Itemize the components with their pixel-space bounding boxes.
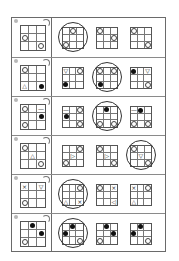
circle-icon — [97, 238, 103, 244]
grid-cell — [131, 68, 138, 75]
symbol-icon: — — [131, 107, 137, 113]
filled-dot-icon — [138, 224, 143, 229]
grid-cell — [37, 82, 45, 90]
circle-icon — [77, 146, 83, 152]
answer-option-1[interactable]: ▷ — [62, 145, 84, 167]
circle-icon — [22, 200, 28, 206]
column-divider — [51, 58, 52, 96]
symbol-icon: ▷ — [70, 153, 75, 159]
grid-cell — [37, 144, 45, 152]
answer-option-3[interactable]: — — [130, 106, 152, 128]
grid-cell — [37, 199, 45, 207]
question-number-marker — [14, 19, 18, 23]
grid-cell — [21, 74, 29, 82]
answer-option-2[interactable]: ▷ — [96, 145, 118, 167]
question-grid — [20, 221, 46, 247]
answer-option-3[interactable] — [130, 27, 152, 49]
grid-cell: △ — [29, 152, 37, 160]
question-number-marker — [14, 98, 18, 102]
grid-cell — [111, 146, 118, 153]
symbol-icon: × — [131, 185, 136, 191]
puzzle-row: △▷▷▽ — [12, 135, 165, 174]
column-divider — [51, 97, 52, 135]
question-number-marker — [14, 59, 18, 63]
symbol-icon: △ — [132, 199, 137, 205]
grid-cell — [29, 191, 37, 199]
filled-dot-icon — [131, 231, 136, 236]
grid-cell — [131, 28, 138, 35]
column-divider — [51, 175, 52, 213]
grid-cell — [138, 231, 145, 238]
filled-dot-icon — [131, 69, 136, 74]
grid-cell — [29, 144, 37, 152]
answer-option-1[interactable]: — — [62, 106, 84, 128]
grid-cell — [131, 237, 138, 244]
symbol-icon: ▽ — [64, 68, 69, 74]
answer-option-2[interactable] — [96, 223, 118, 245]
grid-cell — [21, 42, 29, 50]
symbol-icon: — — [38, 106, 44, 112]
grid-cell — [111, 231, 118, 238]
filled-dot-icon — [138, 108, 143, 113]
symbol-icon: ▷ — [104, 153, 109, 159]
question-grid: △ — [20, 143, 46, 169]
circle-icon — [22, 145, 28, 151]
answer-option-3[interactable]: ×△ — [130, 184, 152, 206]
circle-icon — [22, 122, 28, 128]
grid-cell — [37, 74, 45, 82]
grid-cell — [111, 160, 118, 166]
symbol-icon: △ — [30, 153, 35, 159]
grid-cell — [97, 42, 104, 48]
grid-cell — [97, 224, 104, 231]
grid-cell — [76, 68, 83, 75]
grid-cell — [144, 231, 151, 238]
grid-cell — [63, 82, 70, 89]
grid-cell — [21, 191, 29, 199]
grid-cell — [70, 82, 77, 89]
grid-cell — [111, 153, 118, 160]
symbol-icon: ▽ — [145, 68, 150, 74]
circle-icon — [145, 82, 151, 88]
grid-cell — [138, 82, 145, 89]
grid-cell — [29, 26, 37, 34]
grid-cell — [21, 66, 29, 74]
grid-cell: △ — [131, 199, 138, 206]
grid-cell — [77, 160, 84, 166]
symbol-icon: ▽ — [39, 184, 44, 190]
grid-cell: ▽ — [144, 68, 151, 75]
filled-dot-icon — [30, 223, 35, 228]
grid-cell — [29, 183, 37, 191]
filled-dot-icon — [39, 84, 44, 89]
symbol-icon: × — [111, 185, 116, 191]
answer-option-2[interactable]: ×◁ — [96, 184, 118, 206]
selected-answer-circle — [92, 62, 122, 92]
grid-cell — [131, 224, 138, 231]
circle-icon — [22, 35, 28, 41]
grid-cell — [138, 199, 145, 206]
grid-cell — [131, 231, 138, 238]
filled-dot-icon — [39, 231, 44, 236]
grid-cell — [29, 113, 37, 121]
selected-answer-circle — [92, 101, 122, 131]
answer-option-1[interactable]: ▽ — [62, 67, 84, 89]
grid-cell — [29, 34, 37, 42]
grid-cell — [138, 224, 145, 231]
grid-cell — [77, 146, 84, 153]
question-grid: ×▽ — [20, 182, 46, 208]
puzzle-row — [12, 213, 165, 252]
grid-cell — [77, 153, 84, 160]
circle-icon — [145, 121, 151, 127]
grid-cell — [37, 160, 45, 168]
circle-icon — [111, 160, 117, 166]
circle-icon — [22, 67, 28, 73]
answer-option-2[interactable] — [96, 27, 118, 49]
grid-cell — [29, 105, 37, 113]
grid-cell — [37, 42, 45, 50]
grid-cell — [37, 191, 45, 199]
grid-cell — [21, 113, 29, 121]
answer-option-3[interactable]: ▽ — [130, 67, 152, 89]
grid-cell — [21, 34, 29, 42]
answer-option-3[interactable] — [130, 223, 152, 245]
symbol-icon: × — [22, 184, 27, 190]
circle-icon — [97, 146, 103, 152]
